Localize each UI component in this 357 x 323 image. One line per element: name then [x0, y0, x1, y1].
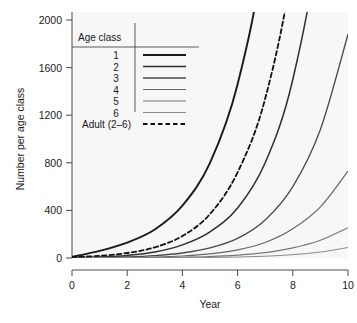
y-axis-ticks: [66, 20, 72, 258]
legend-label-1: 1: [113, 50, 119, 61]
y-axis-title: Number per age class: [14, 88, 26, 191]
legend-label-4: 4: [113, 85, 119, 96]
line-chart: 2000 1600 1200 800 400 0 Number per age …: [0, 0, 357, 323]
x-tick-label: 0: [69, 279, 75, 291]
x-tick-label: 10: [342, 279, 354, 291]
legend-label-5: 5: [113, 96, 119, 107]
legend-label-adult: Adult (2–6): [82, 119, 131, 130]
y-tick-label: 0: [56, 252, 62, 264]
y-tick-label: 2000: [39, 14, 63, 26]
x-axis-title: Year: [199, 298, 221, 310]
chart-figure: 2000 1600 1200 800 400 0 Number per age …: [0, 0, 357, 323]
legend-label-3: 3: [113, 73, 119, 84]
y-axis-tick-labels: 2000 1600 1200 800 400 0: [39, 14, 63, 264]
y-tick-label: 400: [44, 204, 62, 216]
x-tick-label: 8: [290, 279, 296, 291]
y-tick-label: 1600: [39, 62, 63, 74]
x-tick-label: 4: [179, 279, 185, 291]
x-tick-label: 6: [235, 279, 241, 291]
x-axis-tick-labels: 0 2 4 6 8 10: [69, 279, 354, 291]
legend-title: Age class: [78, 32, 121, 43]
y-tick-label: 1200: [39, 109, 63, 121]
x-tick-label: 2: [124, 279, 130, 291]
x-axis-ticks: [72, 270, 348, 276]
y-tick-label: 800: [44, 157, 62, 169]
legend-label-6: 6: [113, 108, 119, 119]
legend-label-2: 2: [113, 62, 119, 73]
plot-panel-background: [72, 12, 348, 258]
